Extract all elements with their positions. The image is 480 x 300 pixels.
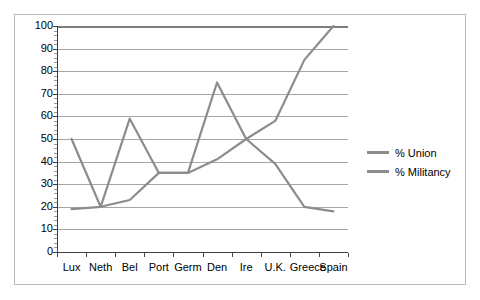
x-axis-label-bel: Bel — [115, 261, 144, 274]
y-axis-minor-tick — [54, 80, 57, 81]
y-axis-tick-label: 100 — [19, 20, 53, 31]
x-axis-tick-mark — [115, 253, 116, 257]
legend-line-swatch — [367, 170, 389, 173]
y-axis-tick-label: 20 — [19, 201, 53, 212]
y-axis-tick-mark — [53, 184, 57, 185]
x-axis-tick-mark — [57, 253, 58, 257]
y-axis-minor-tick — [54, 171, 57, 172]
x-axis-label-greece: Greece — [290, 261, 319, 274]
x-axis-tick-mark — [319, 253, 320, 257]
legend-label: % Union — [395, 147, 437, 159]
y-axis-minor-tick — [54, 53, 57, 54]
y-axis-tick-label: 70 — [19, 88, 53, 99]
y-axis-minor-tick — [54, 98, 57, 99]
y-axis-minor-tick — [54, 220, 57, 221]
x-axis-label-ire: Ire — [232, 261, 261, 274]
y-axis-tick-mark — [53, 26, 57, 27]
y-axis-tick-mark — [53, 116, 57, 117]
y-axis-tick-mark — [53, 252, 57, 253]
x-axis-tick-mark — [261, 253, 262, 257]
y-axis-minor-tick — [54, 35, 57, 36]
x-axis-label-lux: Lux — [57, 261, 86, 274]
legend-item-union[interactable]: % Union — [367, 143, 463, 162]
y-axis-minor-tick — [54, 44, 57, 45]
x-axis-tick-mark — [173, 253, 174, 257]
legend-item-militancy[interactable]: % Militancy — [367, 162, 463, 181]
x-axis-label-port: Port — [144, 261, 173, 274]
y-axis-minor-tick — [54, 180, 57, 181]
y-axis-tick-label: 50 — [19, 133, 53, 144]
legend-line-swatch — [367, 151, 389, 154]
x-axis-label-den: Den — [203, 261, 232, 274]
y-axis-minor-tick — [54, 125, 57, 126]
y-axis-minor-tick — [54, 211, 57, 212]
y-axis-tick-mark — [53, 207, 57, 208]
y-axis-minor-tick — [54, 107, 57, 108]
y-axis-minor-tick — [54, 166, 57, 167]
y-axis-minor-tick — [54, 243, 57, 244]
x-axis-tick-mark — [203, 253, 204, 257]
y-axis-tick-mark — [53, 71, 57, 72]
y-axis-minor-tick — [54, 130, 57, 131]
chart-frame: 1009080706050403020100 LuxNethBelPortGer… — [14, 14, 466, 285]
y-axis-tick-mark — [53, 94, 57, 95]
series-line-union — [72, 26, 334, 209]
y-axis-minor-tick — [54, 112, 57, 113]
y-axis-minor-tick — [54, 58, 57, 59]
y-axis-tick-label: 10 — [19, 223, 53, 234]
y-axis-minor-tick — [54, 189, 57, 190]
x-axis-tick-mark — [86, 253, 87, 257]
y-axis-minor-tick — [54, 40, 57, 41]
y-axis-tick-mark — [53, 49, 57, 50]
y-axis-minor-tick — [54, 76, 57, 77]
x-axis-label-spain: Spain — [319, 261, 348, 274]
y-axis-minor-tick — [54, 234, 57, 235]
y-axis-tick-label: 60 — [19, 110, 53, 121]
y-axis-minor-tick — [54, 67, 57, 68]
series-layer — [57, 26, 348, 252]
y-axis-minor-tick — [54, 225, 57, 226]
y-axis-minor-tick — [54, 121, 57, 122]
y-axis-minor-tick — [54, 198, 57, 199]
x-axis-tick-mark — [144, 253, 145, 257]
y-axis-minor-tick — [54, 202, 57, 203]
y-axis-minor-tick — [54, 85, 57, 86]
x-axis-label-germ: Germ — [173, 261, 202, 274]
chart-legend: % Union% Militancy — [367, 143, 463, 181]
y-axis-minor-tick — [54, 134, 57, 135]
y-axis-minor-tick — [54, 216, 57, 217]
y-axis-minor-tick — [54, 175, 57, 176]
x-axis-label-neth: Neth — [86, 261, 115, 274]
y-axis-tick-mark — [53, 229, 57, 230]
y-axis-minor-tick — [54, 153, 57, 154]
series-line-militancy — [72, 83, 334, 212]
y-axis-tick-label: 80 — [19, 65, 53, 76]
y-axis-minor-tick — [54, 31, 57, 32]
y-axis-minor-tick — [54, 193, 57, 194]
y-axis-tick-mark — [53, 162, 57, 163]
y-axis-tick-label: 0 — [19, 246, 53, 257]
y-axis-minor-tick — [54, 238, 57, 239]
y-axis-tick-label: 90 — [19, 43, 53, 54]
y-axis-minor-tick — [54, 144, 57, 145]
y-axis-minor-tick — [54, 89, 57, 90]
x-axis-tick-mark — [290, 253, 291, 257]
y-axis-tick-mark — [53, 139, 57, 140]
y-axis-minor-tick — [54, 157, 57, 158]
y-axis-minor-tick — [54, 247, 57, 248]
plot-wrapper: 1009080706050403020100 LuxNethBelPortGer… — [15, 15, 467, 286]
y-axis-tick-label: 30 — [19, 178, 53, 189]
y-axis-minor-tick — [54, 62, 57, 63]
x-axis-tick-mark — [348, 253, 349, 257]
y-axis-minor-tick — [54, 103, 57, 104]
x-axis-tick-mark — [232, 253, 233, 257]
x-axis-label-uk: U.K. — [261, 261, 290, 274]
y-axis-minor-tick — [54, 148, 57, 149]
y-axis-labels: 1009080706050403020100 — [15, 15, 53, 286]
y-axis-tick-label: 40 — [19, 156, 53, 167]
legend-label: % Militancy — [395, 166, 451, 178]
